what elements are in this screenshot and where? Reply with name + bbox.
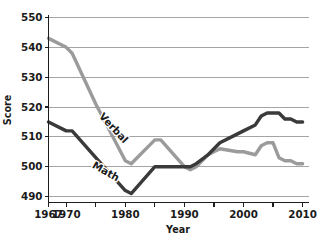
y-tick-label: 530	[21, 71, 43, 83]
gridlines-group	[49, 17, 309, 196]
y-tick-label: 500	[21, 160, 43, 172]
axes-group	[49, 15, 309, 203]
x-tick-label: 1990	[170, 208, 199, 220]
chart-figure: 490500510520530540550 196719701980199020…	[0, 0, 319, 242]
y-tick-label: 550	[21, 11, 43, 23]
line-chart: 490500510520530540550 196719701980199020…	[0, 0, 319, 242]
y-axis-title: Score	[2, 94, 13, 125]
series-inline-labels-group: VerbalVerbalMathMath	[90, 111, 130, 184]
x-tick-labels-group: 196719701980199020002010	[34, 208, 317, 220]
x-axis-title: Year	[165, 224, 190, 235]
axis-ticks-group	[45, 17, 303, 207]
x-tick-label: 2000	[229, 208, 258, 220]
series-group	[49, 38, 303, 193]
y-tick-label: 520	[21, 101, 43, 113]
series-line-math	[49, 113, 303, 194]
x-tick-label: 2010	[288, 208, 317, 220]
series-label-math: Math	[90, 159, 121, 183]
y-tick-labels-group: 490500510520530540550	[21, 11, 43, 202]
x-tick-label: 1970	[52, 208, 81, 220]
series-line-verbal	[49, 38, 303, 169]
y-tick-label: 510	[21, 130, 43, 142]
y-tick-label: 490	[21, 190, 43, 202]
x-tick-label: 1980	[111, 208, 140, 220]
y-tick-label: 540	[21, 41, 43, 53]
